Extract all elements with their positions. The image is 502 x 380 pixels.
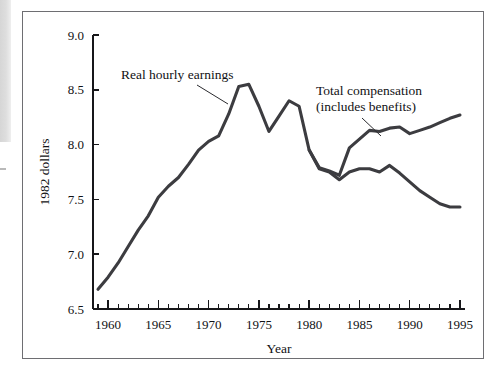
y-tick-label: 9.0 <box>68 28 84 43</box>
scan-artifact-mark <box>0 168 6 170</box>
x-tick-label: 1980 <box>296 317 322 332</box>
x-axis-ticks <box>98 300 460 309</box>
y-tick-label: 8.0 <box>68 137 84 152</box>
x-tick-label: 1995 <box>447 317 473 332</box>
annotation-label-real-hourly-earnings: Real hourly earnings <box>121 67 233 82</box>
x-axis-tick-labels: 19601965197019751980198519901995 <box>95 317 473 332</box>
x-tick-label: 1975 <box>246 317 272 332</box>
annotation-label-total-compensation: (includes benefits) <box>316 99 416 114</box>
y-tick-label: 6.5 <box>68 302 84 317</box>
x-tick-label: 1965 <box>145 317 171 332</box>
annotation-label-total-compensation: Total compensation <box>316 83 422 98</box>
line-chart: 6.57.07.58.08.59.0 196019651970197519801… <box>22 11 484 359</box>
y-tick-label: 8.5 <box>68 82 84 97</box>
y-axis-tick-labels: 6.57.07.58.08.59.0 <box>68 28 84 317</box>
figure-root: 6.57.07.58.08.59.0 196019651970197519801… <box>0 0 502 380</box>
annotation-leader-real-hourly-earnings <box>197 85 228 104</box>
x-tick-label: 1970 <box>196 317 222 332</box>
x-axis-title: Year <box>267 341 292 356</box>
y-tick-label: 7.0 <box>68 247 84 262</box>
series-line-total-compensation <box>309 115 460 175</box>
x-tick-label: 1960 <box>95 317 121 332</box>
y-tick-label: 7.5 <box>68 192 84 207</box>
y-axis-ticks <box>93 35 99 309</box>
series-group <box>98 84 460 289</box>
x-tick-label: 1990 <box>397 317 423 332</box>
x-tick-label: 1985 <box>346 317 372 332</box>
series-line-real-hourly-earnings <box>98 84 460 289</box>
y-axis-title: 1982 dollars <box>37 138 52 205</box>
scan-artifact-bar <box>0 0 11 142</box>
